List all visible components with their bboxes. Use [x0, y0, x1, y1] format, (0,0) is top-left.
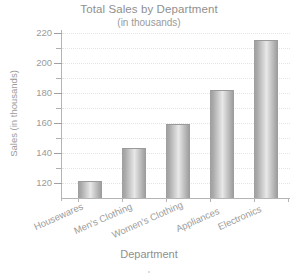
y-tick-180 [54, 93, 62, 94]
bar-appliances [210, 90, 234, 198]
y-axis-line [61, 30, 62, 201]
y-axis-title: Sales (in thousands) [8, 54, 19, 174]
y-tick-200 [54, 63, 62, 64]
x-axis-labels: Housewares Men's Clothing Women's Clothi… [0, 200, 298, 248]
y-tick-120 [54, 183, 62, 184]
y-tick-210 [56, 48, 61, 49]
bar-mens-clothing [122, 148, 146, 198]
plot-area [62, 33, 290, 198]
y-tick-130 [56, 168, 61, 169]
y-tick-220 [54, 33, 62, 34]
y-tick-150 [56, 138, 61, 139]
y-tick-160 [54, 123, 62, 124]
bar-chart: Total Sales by Department (in thousands)… [0, 0, 298, 279]
y-axis-label: 120 [22, 178, 52, 188]
bar-housewares [78, 181, 102, 198]
y-tick-190 [56, 78, 61, 79]
y-tick-140 [54, 153, 62, 154]
x-axis-title: Department [0, 248, 298, 260]
y-tick-170 [56, 108, 61, 109]
y-axis-label: 200 [22, 58, 52, 68]
bar-electronics [254, 40, 278, 198]
gridline [62, 33, 290, 35]
x-axis-line [61, 198, 290, 199]
page-marker-dot [148, 271, 150, 273]
y-axis-label: 220 [22, 28, 52, 38]
y-axis-label: 180 [22, 88, 52, 98]
y-axis-label: 160 [22, 118, 52, 128]
bar-womens-clothing [166, 124, 190, 198]
x-axis-label-electronics: Electronics [216, 203, 263, 232]
y-axis-label: 140 [22, 148, 52, 158]
